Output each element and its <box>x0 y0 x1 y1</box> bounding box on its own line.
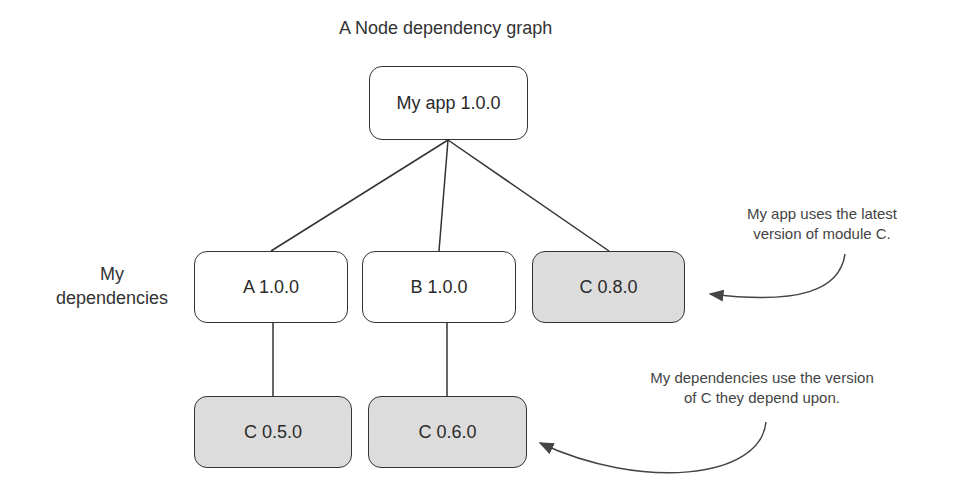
node-label: C 0.5.0 <box>244 422 302 443</box>
side-label-line2: dependencies <box>52 286 172 310</box>
app-arrow <box>710 254 845 298</box>
node-label: My app 1.0.0 <box>396 93 500 114</box>
annotation-app: My app uses the latest version of module… <box>722 204 922 244</box>
annotation-line: My app uses the latest <box>722 204 922 224</box>
node-c-b: C 0.6.0 <box>368 396 527 468</box>
node-a: A 1.0.0 <box>194 251 348 323</box>
node-my-app: My app 1.0.0 <box>369 66 528 140</box>
annotation-line: version of module C. <box>722 224 922 244</box>
node-c-a: C 0.5.0 <box>194 396 352 468</box>
annotation-deps: My dependencies use the version of C the… <box>612 368 912 408</box>
node-label: C 0.6.0 <box>418 422 476 443</box>
edge-root-b <box>439 140 448 251</box>
node-c-top: C 0.8.0 <box>532 251 685 323</box>
deps-arrow <box>540 422 766 473</box>
edge-root-a <box>271 140 448 251</box>
node-label: B 1.0.0 <box>410 277 467 298</box>
node-label: C 0.8.0 <box>579 277 637 298</box>
annotation-line: of C they depend upon. <box>612 388 912 408</box>
edge-root-c <box>448 140 609 251</box>
node-b: B 1.0.0 <box>362 251 516 323</box>
node-label: A 1.0.0 <box>243 277 299 298</box>
my-dependencies-label: My dependencies <box>52 262 172 310</box>
side-label-line1: My <box>52 262 172 286</box>
annotation-line: My dependencies use the version <box>612 368 912 388</box>
